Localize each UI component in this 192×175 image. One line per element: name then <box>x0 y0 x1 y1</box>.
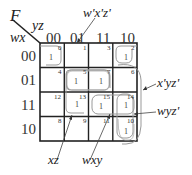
row-header-11: 11 <box>21 98 35 113</box>
row-header-10: 10 <box>21 122 36 137</box>
cell-index-11: 11 <box>103 118 110 125</box>
cell-index-8: 8 <box>58 118 62 125</box>
cell-index-12: 12 <box>54 94 61 101</box>
cell-index-1: 1 <box>83 45 87 52</box>
cell-index-4: 4 <box>58 69 62 76</box>
cell-index-6: 6 <box>131 69 135 76</box>
cell-value-13: 1 <box>75 101 79 109</box>
row-header-01: 01 <box>21 73 36 88</box>
cell-index-5: 5 <box>83 69 87 76</box>
cell-index-9: 9 <box>83 118 87 125</box>
cell-value-10: 1 <box>124 128 128 136</box>
term-label-wyz: wyz' <box>157 104 179 117</box>
row-header-00: 00 <box>21 49 36 64</box>
term-label-xz: xz <box>48 153 59 166</box>
cell-value-2: 1 <box>124 54 128 62</box>
cell-index-15: 15 <box>103 94 110 101</box>
term-label-xyz: x'yz' <box>157 76 179 89</box>
cell-index-0: 0 <box>58 45 62 52</box>
term-label-wxz: w'x'z' <box>83 6 111 19</box>
cell-index-13: 13 <box>79 94 86 101</box>
cell-value-7: 1 <box>99 78 103 86</box>
cell-index-7: 7 <box>107 69 111 76</box>
cell-index-10: 10 <box>127 118 134 125</box>
cell-index-2: 2 <box>131 45 135 52</box>
cell-value-15: 1 <box>99 103 103 111</box>
cell-value-5: 1 <box>74 78 78 86</box>
function-label: F <box>10 7 20 24</box>
cell-index-14: 14 <box>127 94 134 101</box>
cell-value-0: 1 <box>49 54 53 62</box>
col-var-label: yz <box>32 19 44 33</box>
term-label-wxy: wxy <box>82 153 102 166</box>
row-var-label: wx <box>10 31 26 45</box>
cell-index-3: 3 <box>107 45 111 52</box>
cell-value-14: 1 <box>124 102 128 110</box>
